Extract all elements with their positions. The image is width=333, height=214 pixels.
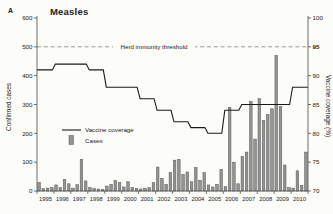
case-bar (173, 160, 176, 191)
case-bar (127, 182, 130, 191)
right-tick-label: 90 (313, 72, 320, 79)
case-bar (59, 188, 62, 191)
case-bar (288, 188, 291, 191)
panel-label: A (8, 7, 13, 14)
case-bar (55, 185, 58, 191)
case-bar (237, 184, 240, 191)
case-bar (178, 159, 181, 191)
x-tick-label: 2003 (175, 196, 188, 202)
case-bar (131, 188, 134, 191)
case-bar (148, 188, 151, 191)
right-tick-label: 95 (313, 43, 320, 50)
case-bar (110, 184, 113, 191)
case-bar (241, 156, 244, 191)
case-bar (123, 187, 126, 191)
right-tick-label: 100 (313, 14, 324, 21)
case-bar (245, 152, 248, 191)
x-tick-label: 2005 (208, 196, 221, 202)
case-bar (46, 188, 49, 191)
case-bar (156, 167, 159, 191)
case-bar (258, 99, 261, 191)
case-bar (216, 184, 219, 191)
case-bar (305, 152, 308, 191)
case-bar (224, 187, 227, 191)
left-tick-label: 0 (29, 187, 33, 194)
case-bar (211, 187, 214, 191)
left-tick-label: 200 (22, 130, 33, 137)
legend: Vaccine coverage Cases (62, 126, 134, 144)
x-tick-label: 2000 (124, 196, 137, 202)
x-tick-label: 2007 (242, 196, 255, 202)
x-tick-label: 2010 (293, 196, 306, 202)
right-tick-label: 85 (313, 101, 320, 108)
left-tick-label: 400 (22, 72, 33, 79)
case-bar (199, 180, 202, 191)
x-tick-label: 2009 (276, 196, 289, 202)
threshold-label: Herd immunity threshold (120, 43, 188, 50)
left-tick-label: 600 (22, 14, 33, 21)
x-tick-label: 2002 (158, 196, 171, 202)
case-bar (296, 171, 299, 191)
measles-chart: Herd immunity threshold 0100200300400500… (0, 0, 333, 214)
x-tick-label: 1997 (73, 196, 86, 202)
case-bar (84, 181, 87, 191)
right-tick-label: 80 (313, 130, 320, 137)
case-bar (72, 188, 75, 191)
left-tick-label: 300 (22, 101, 33, 108)
left-tick-label: 100 (22, 158, 33, 165)
right-tick-label: 70 (313, 187, 320, 194)
case-bar (76, 185, 79, 191)
case-bar (233, 162, 236, 191)
x-tick-label: 1998 (90, 196, 103, 202)
case-bar (80, 159, 83, 191)
case-bar (254, 139, 257, 191)
case-bar (266, 115, 269, 191)
x-tick-label: 1999 (107, 196, 120, 202)
case-bar (165, 184, 168, 191)
chart-title: Measles (50, 6, 88, 17)
case-bar (38, 182, 41, 191)
case-bar (63, 179, 66, 191)
legend-bar-label: Cases (85, 137, 103, 144)
case-bar (228, 107, 231, 191)
case-bar (89, 188, 92, 191)
legend-bar-swatch (69, 136, 74, 145)
case-bar (271, 109, 274, 191)
case-bar (106, 186, 109, 191)
right-axis-title: Vaccine coverage (%) (324, 75, 332, 137)
case-bar (300, 185, 303, 191)
cases-bars (38, 55, 307, 191)
measles-figure: Herd immunity threshold 0100200300400500… (0, 0, 333, 214)
case-bar (283, 165, 286, 191)
case-bar (67, 184, 70, 191)
case-bar (262, 120, 265, 191)
x-tick-label: 2006 (225, 196, 238, 202)
case-bar (203, 173, 206, 191)
case-bar (194, 168, 197, 191)
case-bar (161, 178, 164, 191)
x-tick-label: 2004 (191, 196, 205, 202)
x-tick-label: 1995 (39, 196, 52, 202)
left-axis-title: Confirmed cases (5, 83, 12, 131)
legend-line-label: Vaccine coverage (85, 126, 134, 133)
x-tick-label: 1996 (56, 196, 69, 202)
case-bar (169, 173, 172, 191)
case-bar (292, 188, 295, 191)
case-bar (250, 102, 253, 191)
case-bar (186, 172, 189, 191)
case-bar (114, 180, 117, 191)
case-bar (152, 183, 155, 191)
right-tick-label: 75 (313, 158, 320, 165)
x-tick-label: 2001 (141, 196, 154, 202)
case-bar (182, 174, 185, 191)
case-bar (279, 107, 282, 191)
left-tick-label: 500 (22, 43, 33, 50)
case-bar (118, 183, 121, 191)
case-bar (207, 185, 210, 191)
case-bar (190, 182, 193, 191)
x-tick-label: 2008 (259, 196, 272, 202)
case-bar (220, 169, 223, 191)
case-bar (51, 188, 54, 191)
case-bar (275, 55, 278, 191)
